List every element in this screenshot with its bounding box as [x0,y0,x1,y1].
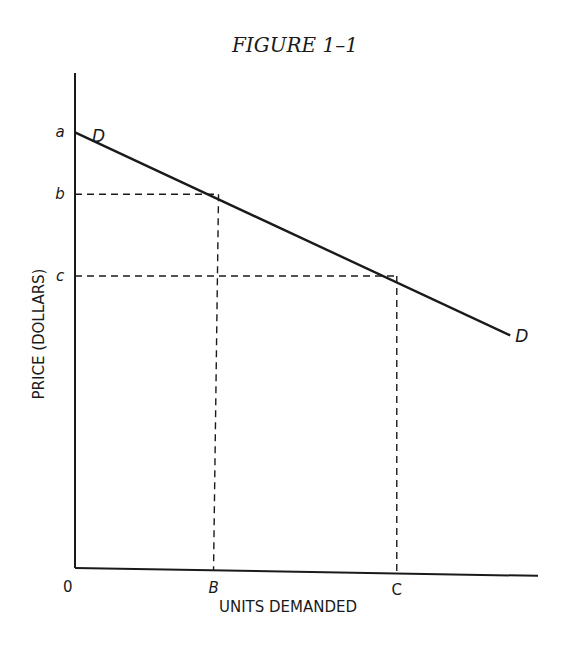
demand-curve-end-label: D [515,326,528,346]
chart-title: FIGURE 1–1 [231,33,358,57]
dashed-guides [75,194,397,573]
x-axis-line [75,568,538,576]
price-label-b: b [55,185,65,203]
price-label-a: a [55,123,64,141]
demand-curve-line [75,132,510,335]
tick-labels: abcBC [55,123,402,599]
x-axis-label: UNITS DEMANDED [219,598,357,616]
demand-curve-chart: FIGURE 1–1 DD abcBC UNITS DEMANDED PRICE… [0,0,566,671]
series-layer: DD [75,126,528,346]
quantity-label-C: C [392,581,402,599]
demand-curve-start-label: D [92,126,105,146]
quantity-label-B: B [208,579,218,597]
vertical-guide-b [214,194,219,570]
y-axis-label: PRICE (DOLLARS) [30,269,48,400]
axes [75,73,538,576]
origin-label: 0 [63,578,73,596]
price-label-c: c [56,267,65,285]
